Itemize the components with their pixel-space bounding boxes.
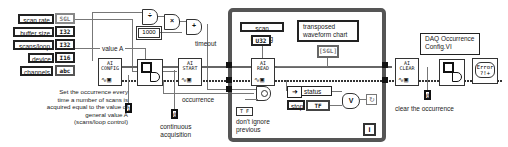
scans-loop-label: scans/loop <box>13 40 54 50</box>
buffer-size-terminal[interactable]: I32 <box>55 26 75 37</box>
iteration-terminal: i <box>363 123 376 136</box>
note-line: Set the occurrence every <box>18 88 128 96</box>
tunnel <box>382 77 388 83</box>
wire-const1 <box>128 75 129 103</box>
ai-start-name: START <box>179 66 201 71</box>
scan-rate-terminal[interactable]: SGL <box>55 13 75 24</box>
note-line: (scans/loop control) <box>18 118 128 126</box>
wire-scanrate-start <box>132 19 133 71</box>
note-line: general value A <box>18 111 128 119</box>
channels-terminal[interactable]: abc <box>55 65 75 76</box>
ai-start-vi[interactable]: AI START ∿▣ <box>178 58 202 86</box>
iteration-icon: i <box>369 126 371 133</box>
value-a-label: value A <box>100 45 125 52</box>
occurrence-config-vi[interactable] <box>137 59 163 86</box>
dont-ignore-label: don't ignore previous <box>236 118 270 134</box>
refresh-icon: ↻ <box>369 96 375 103</box>
ai-read-name: READ <box>252 66 274 71</box>
stop-label: stop <box>287 100 305 110</box>
or-icon: V <box>349 97 354 104</box>
occurrence-label: occurrence <box>182 96 214 103</box>
tunnel <box>226 77 232 83</box>
scan-backlog-label: scan backlog <box>240 22 284 32</box>
stop-terminal[interactable]: TF <box>306 100 330 111</box>
waveform-icon: ∿▣ <box>101 78 111 83</box>
waveform-icon: ∿▣ <box>181 78 191 83</box>
occurrence-note: Set the occurrence every time a number o… <box>18 88 128 126</box>
ai-clear-name: CLEAR <box>396 66 418 71</box>
not-equal-gate[interactable] <box>256 86 271 101</box>
wire-occurrence <box>163 80 164 93</box>
wire-bus-vertical <box>92 12 93 61</box>
status-label: status <box>301 86 332 96</box>
continuous-acquisition-label: continuous acquisition <box>160 123 191 139</box>
wire-scanrate <box>72 19 132 20</box>
device-label: device <box>28 53 54 63</box>
occurrence-gate-icon <box>150 72 160 82</box>
divide-icon: ÷ <box>148 12 152 19</box>
channels-label: channels <box>20 66 53 76</box>
loop-condition[interactable]: ↻ <box>366 94 377 105</box>
add-node[interactable]: + <box>186 19 202 35</box>
divide-node[interactable]: ÷ <box>142 9 158 25</box>
tunnel <box>226 62 232 68</box>
multiply-icon: × <box>170 17 174 24</box>
clear-occurrence-label: clear the occurrence <box>395 105 454 112</box>
timeout-label: timeout <box>195 40 216 47</box>
error-icon: Error ?!+ <box>475 62 495 78</box>
chart-label: transposed waveform chart <box>297 20 359 42</box>
chart-terminal[interactable]: [SGL] <box>318 46 338 57</box>
scan-backlog-terminal[interactable]: U32 <box>251 35 271 46</box>
note-line: DAQ Occurrence <box>425 35 475 43</box>
occurrence-gate-icon <box>452 72 462 82</box>
unbundle-status[interactable]: ➜ <box>287 86 302 98</box>
chart-label-line: transposed <box>303 23 353 31</box>
buffer-size-label: buffer size <box>13 27 54 37</box>
ai-config-vi[interactable]: AI CONFIG ∿▣ <box>98 58 122 86</box>
ai-config-name: CONFIG <box>99 66 121 71</box>
ai-read-vi[interactable]: AI READ ∿▣ <box>251 58 275 86</box>
multiply-node[interactable]: × <box>164 14 180 30</box>
tunnel <box>382 62 388 68</box>
scan-rate-label: scan rate <box>18 14 54 24</box>
label-line: acquisition <box>160 131 191 139</box>
tunnel <box>226 86 232 92</box>
or-gate[interactable]: V <box>342 93 360 109</box>
note-line: Config.VI <box>425 43 475 51</box>
error-handler-vi[interactable]: Error ?!+ <box>472 58 498 84</box>
device-terminal[interactable]: I16 <box>55 52 75 63</box>
wire-clear-const <box>427 67 428 90</box>
circle-icon <box>261 90 268 97</box>
wire-dontignore <box>245 99 258 100</box>
wire-const0 <box>174 70 175 109</box>
waveform-icon: ∿▣ <box>254 78 264 83</box>
label-line: continuous <box>160 123 191 131</box>
note-line: acquired equal to the value of <box>18 103 128 111</box>
wire-1000 <box>160 32 182 33</box>
label-line: don't ignore <box>236 118 270 126</box>
continuous-const-0[interactable]: 0 <box>171 109 178 119</box>
add-icon: + <box>192 22 196 29</box>
scans-loop-terminal[interactable]: I32 <box>55 39 75 50</box>
clear-occurrence-const-0[interactable]: 0 <box>424 90 431 100</box>
label-line: previous <box>236 126 270 134</box>
constant-1000[interactable]: 1000 <box>138 28 160 38</box>
waveform-icon: ∿▣ <box>398 78 408 83</box>
wire-top-bus <box>92 12 147 13</box>
dont-ignore-const[interactable]: T F <box>236 107 253 116</box>
daq-occurrence-config-note: DAQ Occurrence Config.VI <box>420 33 480 55</box>
ai-clear-vi[interactable]: AI CLEAR ∿▣ <box>395 58 419 86</box>
note-line: time a number of scans is <box>18 96 128 104</box>
chart-label-line: waveform chart <box>303 31 353 39</box>
arrow-right-icon: ➜ <box>292 88 298 95</box>
occurrence-config-vi-2[interactable] <box>439 59 465 86</box>
